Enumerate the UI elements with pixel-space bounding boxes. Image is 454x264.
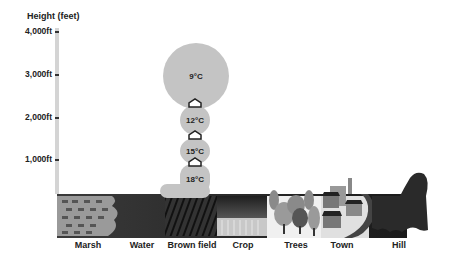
bubble-18c: 18°C — [180, 164, 210, 194]
label-trees: Trees — [276, 240, 316, 250]
hill-area — [372, 173, 428, 232]
label-brown-field: Brown field — [162, 240, 222, 250]
up-arrow-icon — [188, 130, 202, 140]
crop-area — [217, 218, 267, 236]
ground-scene — [0, 0, 454, 264]
label-crop: Crop — [223, 240, 263, 250]
brown-field-area — [165, 196, 217, 236]
label-hill: Hill — [379, 240, 419, 250]
label-water: Water — [122, 240, 162, 250]
label-town: Town — [322, 240, 362, 250]
up-arrow-icon — [188, 157, 202, 167]
up-arrow-icon — [188, 98, 202, 108]
label-marsh: Marsh — [68, 240, 108, 250]
